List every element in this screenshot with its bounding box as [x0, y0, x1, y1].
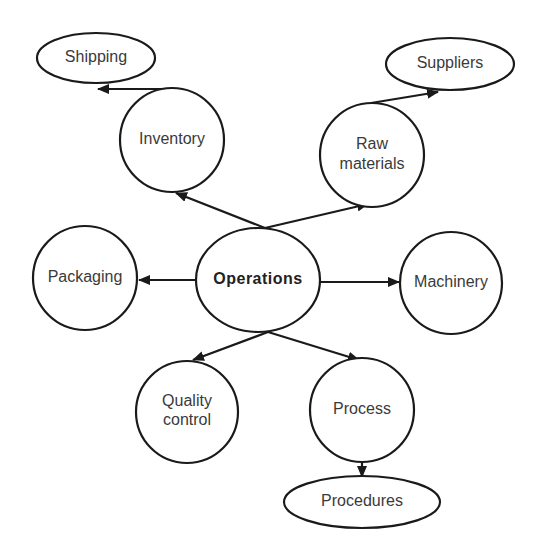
node-process[interactable]: Process [310, 358, 414, 462]
mind-map-diagram: Shipping Inventory Suppliers Raw materia… [0, 0, 539, 559]
edge-operations-quality-control [193, 332, 268, 360]
node-label: Operations [213, 270, 302, 287]
node-label-line1: Quality [162, 392, 212, 409]
node-label-line2: control [163, 411, 211, 428]
node-label: Shipping [65, 48, 127, 65]
node-packaging[interactable]: Packaging [33, 226, 137, 330]
node-machinery[interactable]: Machinery [400, 232, 502, 334]
node-quality-control[interactable]: Quality control [136, 361, 238, 463]
node-suppliers[interactable]: Suppliers [386, 38, 514, 90]
node-label: Process [333, 400, 391, 417]
node-label: Suppliers [417, 54, 484, 71]
node-operations[interactable]: Operations [196, 228, 320, 332]
node-label: Machinery [414, 273, 488, 290]
edge-raw-materials-suppliers [371, 92, 438, 103]
node-raw-materials[interactable]: Raw materials [320, 103, 424, 207]
node-label-line1: Raw [356, 135, 388, 152]
node-procedures[interactable]: Procedures [284, 476, 440, 528]
node-inventory[interactable]: Inventory [120, 88, 224, 192]
edge-operations-raw-materials [265, 204, 368, 228]
edge-operations-process [268, 332, 359, 360]
node-label: Inventory [139, 130, 205, 147]
node-label: Packaging [48, 268, 123, 285]
node-label: Procedures [321, 492, 403, 509]
edge-operations-inventory [176, 193, 265, 228]
node-label-line2: materials [340, 155, 405, 172]
node-shipping[interactable]: Shipping [37, 33, 155, 83]
